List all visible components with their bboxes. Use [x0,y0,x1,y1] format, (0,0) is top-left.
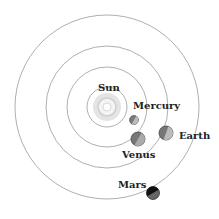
venus-label: Venus [122,149,155,160]
mercury-label: Mercury [133,100,180,111]
earth-label: Earth [179,130,210,141]
venus-planet-icon [131,132,148,149]
mars-label: Mars [118,179,146,190]
orbit-diagram: Sun Mercury Venus Earth Mars [0,0,219,219]
earth-planet-icon [159,126,175,142]
sun-label: Sun [98,82,120,93]
sun-icon [93,93,121,121]
mercury-planet-icon [130,116,141,127]
orbit-diagram-graphic [0,0,219,219]
